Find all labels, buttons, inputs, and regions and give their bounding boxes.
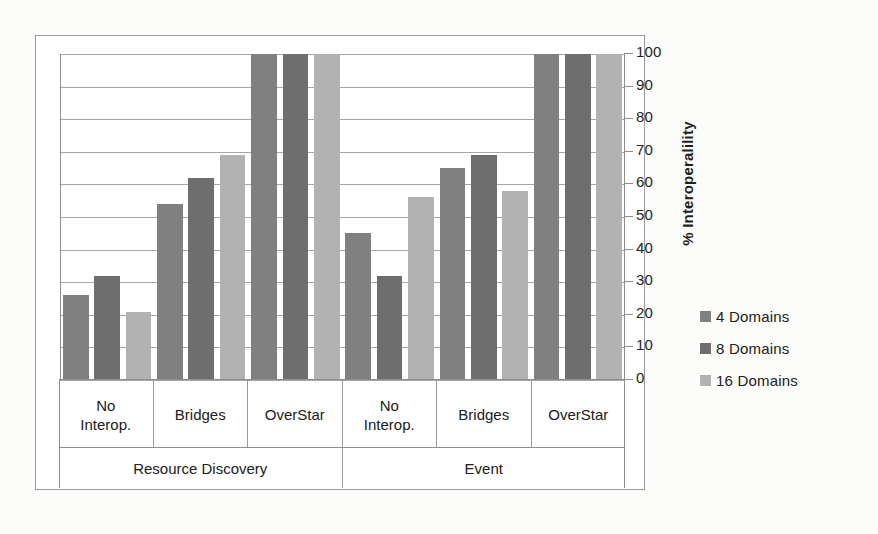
bar-slot — [154, 54, 185, 380]
x-axis-category-label: Bridges — [437, 380, 532, 447]
bar-slot — [311, 54, 342, 380]
bar — [220, 155, 246, 380]
x-axis-category-text: OverStar — [265, 406, 325, 425]
legend-swatch-icon — [700, 343, 711, 354]
x-axis-group-row: Resource DiscoveryEvent — [59, 447, 625, 488]
bar — [94, 276, 120, 380]
x-axis-category-label: NoInterop. — [343, 380, 438, 447]
bar-group — [531, 54, 625, 380]
bar — [596, 54, 622, 380]
bar-slot — [562, 54, 593, 380]
y-axis-tick-label: 30 — [636, 271, 674, 288]
bar-slot — [280, 54, 311, 380]
bar-slot — [123, 54, 154, 380]
bar — [345, 233, 371, 380]
y-axis-tick-label: 80 — [636, 108, 674, 125]
y-axis-tick — [624, 379, 633, 380]
legend-label: 16 Domains — [716, 372, 798, 389]
legend-swatch-icon — [700, 375, 711, 386]
legend-label: 4 Domains — [716, 308, 790, 325]
x-axis-category-label: Bridges — [154, 380, 249, 447]
x-axis-category-text: Bridges — [458, 406, 509, 425]
y-axis-tick — [624, 216, 633, 217]
bar — [534, 54, 560, 380]
y-axis-title: % Interoperalility — [672, 58, 702, 308]
x-axis-category-row: NoInterop.BridgesOverStarNoInterop.Bridg… — [59, 379, 625, 447]
bar — [377, 276, 403, 380]
chart-figure: 1009080706050403020100 % Interoperalilit… — [0, 0, 878, 534]
x-axis-category-text: NoInterop. — [364, 397, 415, 435]
bar-group — [248, 54, 342, 380]
legend-item[interactable]: 4 Domains — [700, 300, 870, 332]
y-axis-tick-label: 90 — [636, 76, 674, 93]
y-axis-tick-label: 50 — [636, 206, 674, 223]
bar-group — [60, 54, 154, 380]
bar — [502, 191, 528, 380]
bar-slot — [343, 54, 374, 380]
bar — [565, 54, 591, 380]
bar — [251, 54, 277, 380]
y-axis-tick — [624, 118, 633, 119]
y-axis-tick — [624, 314, 633, 315]
bar — [188, 178, 214, 380]
bar — [157, 204, 183, 380]
y-axis-tick — [624, 249, 633, 250]
bar-slot — [186, 54, 217, 380]
bar — [63, 295, 89, 380]
y-axis-tick-label: 60 — [636, 173, 674, 190]
y-axis-tick — [624, 346, 633, 347]
x-axis-category-text: OverStar — [548, 406, 608, 425]
y-axis-title-text: % Interoperalility — [679, 121, 696, 245]
bar — [408, 197, 434, 380]
y-axis-tick-label: 40 — [636, 239, 674, 256]
bar-slot — [468, 54, 499, 380]
y-axis-tick-marks — [624, 53, 634, 379]
y-axis-tick-label: 70 — [636, 141, 674, 158]
bar-group — [437, 54, 531, 380]
y-axis-tick — [624, 53, 633, 54]
bar — [283, 54, 309, 380]
x-axis-category-label: OverStar — [532, 380, 626, 447]
bar-slot — [248, 54, 279, 380]
y-axis-tick — [624, 183, 633, 184]
bar — [314, 54, 340, 380]
legend-label: 8 Domains — [716, 340, 790, 357]
bar-group — [154, 54, 248, 380]
chart-legend: 4 Domains8 Domains16 Domains — [700, 300, 870, 396]
y-axis-tick-label: 10 — [636, 336, 674, 353]
y-axis-tick-label: 20 — [636, 304, 674, 321]
legend-swatch-icon — [700, 311, 711, 322]
bar-group — [343, 54, 437, 380]
bar-slot — [437, 54, 468, 380]
bar — [126, 312, 152, 380]
legend-item[interactable]: 16 Domains — [700, 364, 870, 396]
bar-slot — [374, 54, 405, 380]
bar-slot — [217, 54, 248, 380]
x-axis-group-label: Event — [343, 448, 626, 488]
x-axis-category-text: Bridges — [175, 406, 226, 425]
y-axis-tick — [624, 151, 633, 152]
bar — [471, 155, 497, 380]
x-axis-labels: NoInterop.BridgesOverStarNoInterop.Bridg… — [59, 379, 625, 488]
bar-slot — [60, 54, 91, 380]
y-axis-tick-label: 0 — [636, 369, 674, 386]
bar-slot — [91, 54, 122, 380]
bar-slot — [594, 54, 625, 380]
x-axis-category-label: NoInterop. — [59, 380, 154, 447]
y-axis-tick — [624, 281, 633, 282]
bar-slot — [405, 54, 436, 380]
x-axis-category-label: OverStar — [248, 380, 343, 447]
y-axis-tick-label: 100 — [636, 43, 674, 60]
legend-item[interactable]: 8 Domains — [700, 332, 870, 364]
bar-slot — [499, 54, 530, 380]
bar-series-container — [60, 54, 625, 380]
bar-slot — [531, 54, 562, 380]
plot-area — [60, 54, 625, 380]
x-axis-category-text: NoInterop. — [80, 397, 131, 435]
bar — [440, 168, 466, 380]
y-axis-tick-labels: 1009080706050403020100 — [636, 53, 676, 379]
y-axis-tick — [624, 86, 633, 87]
x-axis-group-label: Resource Discovery — [59, 448, 343, 488]
